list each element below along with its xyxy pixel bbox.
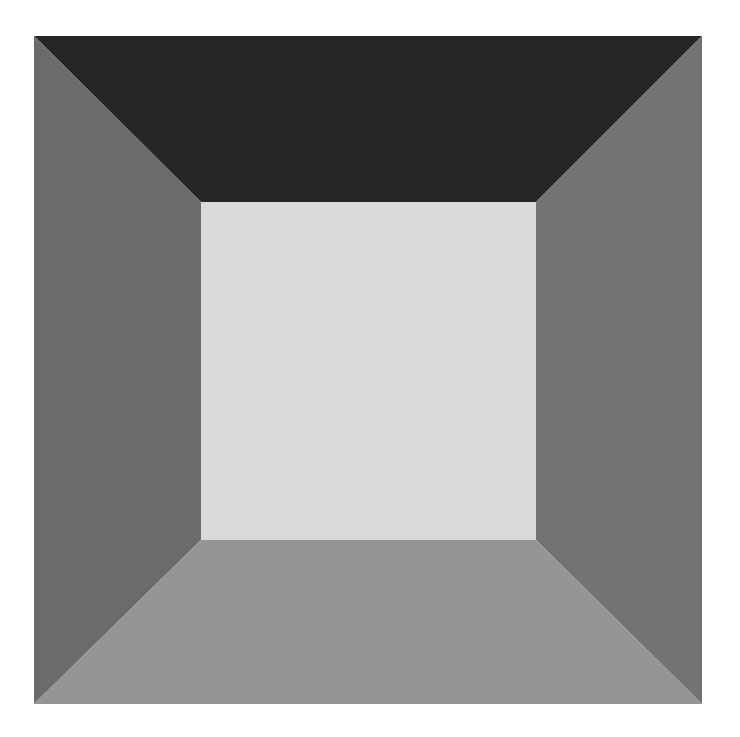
artwork [0, 0, 740, 737]
center-square [201, 202, 536, 540]
